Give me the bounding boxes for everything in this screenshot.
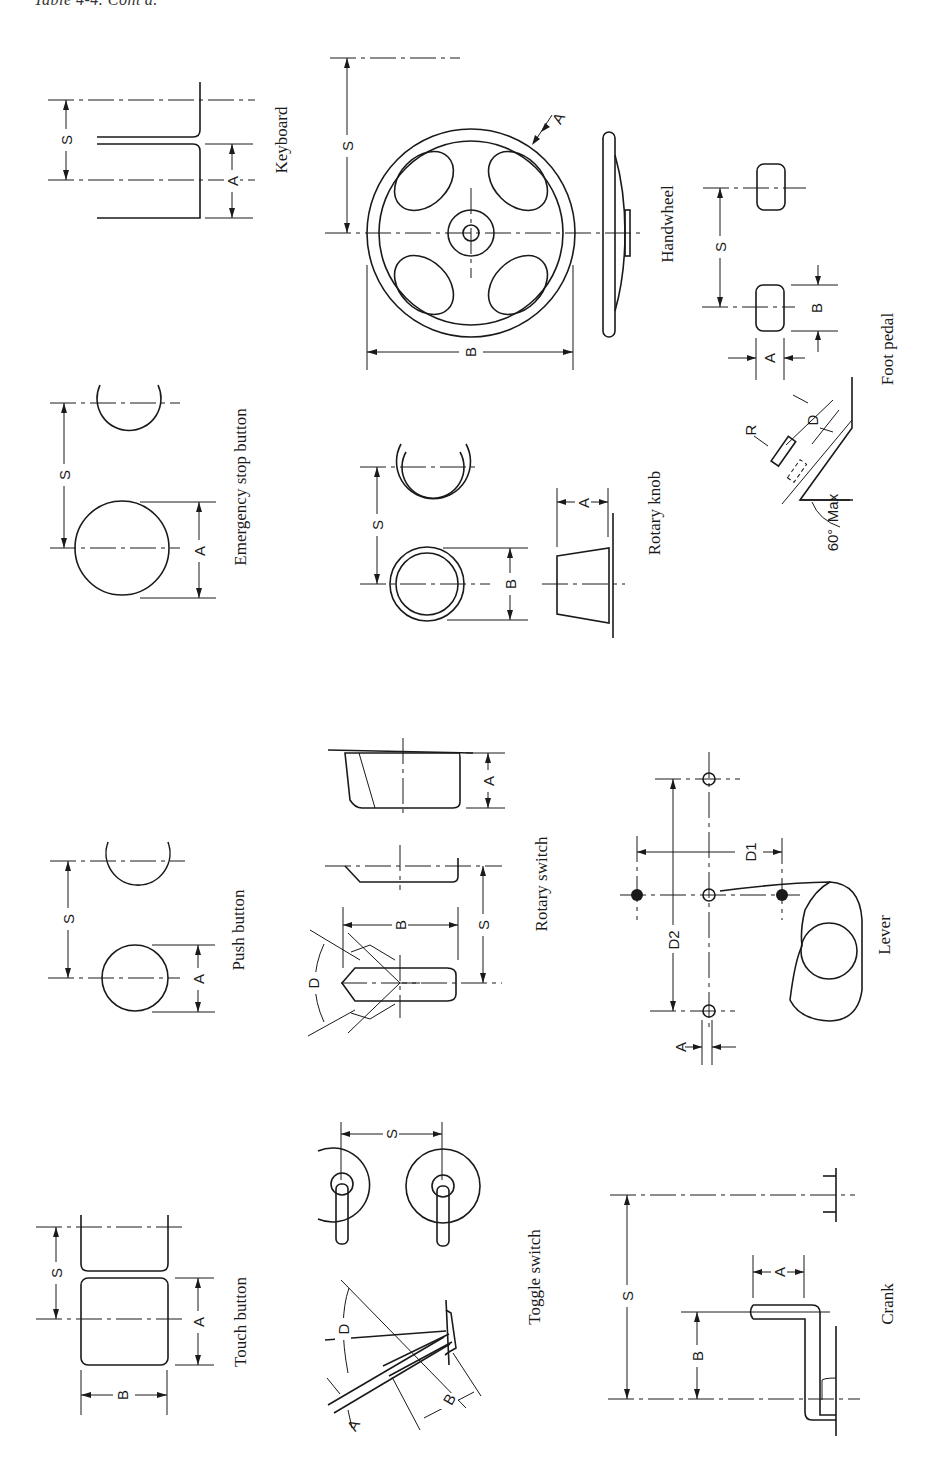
label-lever: Lever — [875, 915, 894, 955]
panel-handwheel: S A B Handwheel — [325, 58, 677, 370]
panel-toggle-switch: S D A B Toggle switch — [318, 1122, 544, 1434]
label-rotary-knob: Rotary knob — [645, 471, 664, 556]
dim-s: S — [383, 1129, 400, 1139]
dim-b: B — [502, 579, 519, 589]
dim-s: S — [48, 1268, 65, 1278]
dim-s: S — [475, 920, 492, 930]
dim-a: A — [480, 776, 497, 786]
dim-a: A — [548, 110, 568, 127]
dim-s: S — [369, 520, 386, 530]
dim-a: A — [190, 974, 207, 984]
label-foot-pedal: Foot pedal — [878, 313, 897, 386]
dim-a: A — [672, 1042, 689, 1052]
label-touch-button: Touch button — [231, 1277, 250, 1367]
dim-d2: D2 — [665, 930, 682, 949]
dim-a: A — [190, 1317, 207, 1327]
dim-a: A — [761, 353, 778, 363]
dim-a: A — [191, 546, 208, 556]
panel-lever: D2 D1 A Lever — [620, 752, 894, 1065]
dim-a: A — [343, 1417, 363, 1434]
label-push-button: Push button — [229, 889, 248, 970]
panel-crank: S B A Crank — [608, 1168, 897, 1436]
dim-r: R — [742, 424, 759, 435]
dim-b: B — [392, 920, 409, 930]
panel-emergency-stop-button: S A Emergency stop button — [50, 385, 250, 598]
dim-s: S — [619, 1291, 636, 1301]
control-dimensions-figure: S A Keyboard S A Emergency stop button — [0, 0, 938, 1479]
panel-rotary-switch: D B S A Rotary switch — [305, 738, 551, 1036]
panel-push-button: S A Push button — [48, 842, 248, 1012]
panel-foot-pedal: S B A D R Max 60° Foot pedal — [702, 164, 897, 551]
dim-b: B — [808, 303, 825, 313]
panel-touch-button: S A B Touch button — [36, 1215, 250, 1415]
dim-s: S — [339, 141, 356, 151]
dim-b: B — [114, 1390, 131, 1400]
dim-a: A — [771, 1267, 788, 1277]
label-emergency-stop-button: Emergency stop button — [231, 408, 250, 566]
dim-angle-60: 60° — [824, 529, 841, 552]
dim-d: D — [305, 977, 322, 988]
label-keyboard: Keyboard — [272, 106, 291, 174]
dim-s: S — [60, 914, 77, 924]
dim-a: A — [224, 176, 241, 186]
dim-s: S — [56, 470, 73, 480]
dim-max: Max — [824, 493, 841, 522]
label-crank: Crank — [878, 1283, 897, 1325]
dim-s: S — [712, 242, 729, 252]
label-rotary-switch: Rotary switch — [532, 836, 551, 931]
dim-d: D — [335, 1323, 352, 1334]
dim-b: B — [462, 347, 479, 357]
panel-rotary-knob: S B A Rotary knob — [360, 444, 664, 638]
label-handwheel: Handwheel — [658, 185, 677, 263]
dim-b: B — [689, 1351, 706, 1361]
dim-s: S — [58, 135, 75, 145]
label-toggle-switch: Toggle switch — [525, 1229, 544, 1325]
dim-d1: D1 — [742, 842, 759, 861]
panel-keyboard: S A Keyboard — [48, 82, 291, 218]
dim-d: D — [804, 414, 821, 425]
dim-a: A — [575, 498, 592, 508]
